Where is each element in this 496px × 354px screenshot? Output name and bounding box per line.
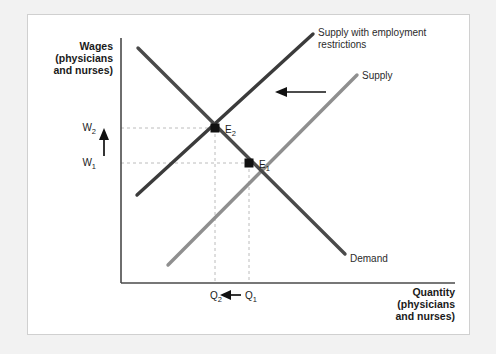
y-axis-title-sub1: (physicians [55,52,113,64]
shift-arrow [275,87,326,97]
y-axis-title-main: Wages [80,40,114,52]
wage-increase-arrow [99,128,109,156]
series-label-supply-restricted-line2: restrictions [318,39,366,50]
demand-curve [138,48,345,254]
supply-restricted-curve [137,34,313,195]
shift-arrow-head [275,87,287,97]
x-tick-labels: Q2 Q1 [210,290,257,304]
supply-demand-chart: E2 E1 W2 W1 [0,0,496,354]
y-tick-w1-sub: 1 [92,162,96,171]
x-axis-title: Quantity (physicians and nurses) [395,286,455,322]
x-axis-title-sub1: (physicians [397,298,455,310]
wage-arrow-head [99,128,109,140]
y-tick-w2: W2 [82,122,96,136]
point-label-e2-sub: 2 [232,129,236,138]
y-tick-w1: W1 [82,157,96,171]
curves [137,34,357,265]
y-tick-labels: W2 W1 [82,122,96,171]
axes [121,38,455,283]
series-label-supply: Supply [362,70,393,81]
x-tick-q2: Q2 [210,290,222,304]
series-labels: Supply with employment restrictions Supp… [318,27,427,264]
x-tick-q1-sub: 1 [253,295,257,304]
series-label-demand: Demand [350,253,388,264]
point-e1-marker [245,159,254,168]
figure-root: E2 E1 W2 W1 [0,0,496,354]
y-tick-w2-sub: 2 [92,127,96,136]
x-tick-q2-sub: 2 [218,295,222,304]
point-e2-marker [211,124,220,133]
series-label-supply-restricted-line1: Supply with employment [318,27,427,38]
x-axis-title-main: Quantity [412,286,455,298]
x-axis-title-sub2: and nurses) [395,310,455,322]
y-axis-title-sub2: and nurses) [53,64,113,76]
y-axis-title: Wages (physicians and nurses) [53,40,113,76]
quantity-decrease-arrow [220,290,241,300]
x-tick-q1: Q1 [245,290,257,304]
point-label-e1-sub: 1 [266,164,270,173]
